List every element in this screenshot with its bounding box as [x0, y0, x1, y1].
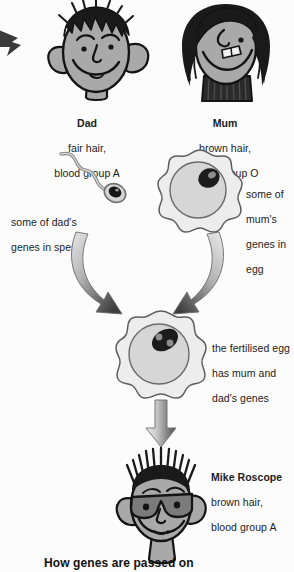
egg-label-line1: some of — [246, 188, 284, 200]
egg-label-line2: mum's — [246, 213, 277, 225]
zygote-label-line1: the fertilised egg — [212, 342, 290, 354]
figure-title: How genes are passed on — [44, 556, 194, 570]
child-blood-trait: blood group A — [211, 521, 276, 533]
egg-label-line4: egg — [246, 263, 264, 275]
child-face-icon — [110, 443, 214, 565]
edge-pointer-icon — [0, 26, 32, 60]
zygote-caption: the fertilised egg has mum and dad's gen… — [212, 329, 294, 405]
arrow-zygote-to-child — [144, 400, 180, 448]
figure-canvas: Dad fair hair, blood group A — [0, 0, 294, 572]
zygote-label-line2: has mum and — [212, 367, 276, 379]
dad-name: Dad — [22, 117, 152, 130]
sperm-label-line1: some of dad's — [11, 216, 77, 228]
egg-cell-icon — [155, 146, 245, 236]
child-caption: Mike Roscope brown hair, blood group A — [211, 458, 294, 534]
egg-caption: some of mum's genes in egg — [246, 175, 294, 276]
fertilised-egg-icon — [113, 307, 209, 403]
dad-face-icon — [38, 0, 156, 104]
child-hair-trait: brown hair, — [211, 496, 263, 508]
mum-name: Mum — [160, 117, 290, 130]
egg-label-line3: genes in — [246, 238, 286, 250]
mum-face-icon — [166, 0, 286, 104]
zygote-label-line3: dad's genes — [212, 392, 269, 404]
child-name: Mike Roscope — [211, 471, 294, 484]
